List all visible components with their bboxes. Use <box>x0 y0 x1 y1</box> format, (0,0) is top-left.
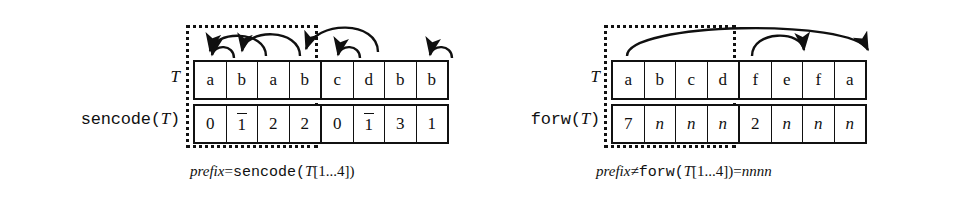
text-right-cell-2: b <box>645 62 677 98</box>
caption-right-tail: nnnn <box>742 163 772 179</box>
sencode-left-cell-3: 2 <box>258 106 290 142</box>
arc-l-6 <box>430 47 452 58</box>
forw-right-cell-7: n <box>803 106 835 142</box>
caption-left-range: [1...4]) <box>313 163 354 179</box>
caption-left: prefix=sencode(T[1...4]) <box>190 164 355 180</box>
text-right-cell-8: a <box>835 62 866 98</box>
caption-right-prefix-word: prefix <box>596 163 630 179</box>
text-left-cell-8: b <box>417 62 448 98</box>
forw-right-cell-2: n <box>645 106 677 142</box>
caption-left-relation: = <box>224 163 232 179</box>
text-array-right: abcdfefa <box>611 60 867 100</box>
caption-right-range: [1...4])= <box>692 163 742 179</box>
sencode-left-cell-6-overbar-value: 1 <box>365 116 374 133</box>
diagram-panel-right: T forw(T) abcdfefa 7nnn2nnn prefix≠forw(… <box>480 0 960 199</box>
caption-right: prefix≠forw(T[1...4])=nnnn <box>596 164 772 180</box>
text-right-cell-4: d <box>708 62 741 98</box>
sencode-left-cell-1: 0 <box>195 106 227 142</box>
caption-left-arg: T <box>305 163 313 179</box>
text-left-cell-6: d <box>354 62 386 98</box>
caption-left-fn: sencode( <box>233 164 305 181</box>
forw-right-cell-3: n <box>676 106 708 142</box>
sencode-left-cell-2: 1 <box>227 106 259 142</box>
sencode-left-cell-6: 1 <box>354 106 386 142</box>
sencode-left-cell-5: 0 <box>322 106 354 142</box>
text-array-left: ababcdbb <box>193 60 449 100</box>
caption-right-fn: forw( <box>639 164 684 181</box>
text-left-cell-1: a <box>195 62 227 98</box>
forw-right-cell-8: n <box>835 106 866 142</box>
forw-right-cell-4: n <box>708 106 741 142</box>
arc-l-1 <box>212 47 234 58</box>
sencode-left-cell-4: 2 <box>290 106 323 142</box>
sencode-array-left: 01220131 <box>193 104 449 144</box>
text-right-cell-7: f <box>803 62 835 98</box>
text-left-cell-3: a <box>258 62 290 98</box>
arc-r-2 <box>752 36 804 56</box>
forw-right-cell-1: 7 <box>613 106 645 142</box>
text-left-cell-4: b <box>290 62 323 98</box>
forw-right-cell-6: n <box>772 106 804 142</box>
forw-array-right: 7nnn2nnn <box>611 104 867 144</box>
arc-l-2 <box>210 36 266 56</box>
text-right-cell-6: e <box>772 62 804 98</box>
sencode-left-cell-7: 3 <box>385 106 417 142</box>
text-left-cell-5: c <box>322 62 354 98</box>
caption-left-prefix-word: prefix <box>190 163 224 179</box>
text-left-cell-2: b <box>227 62 259 98</box>
text-right-cell-1: a <box>613 62 645 98</box>
text-right-cell-3: c <box>676 62 708 98</box>
sencode-left-cell-8: 1 <box>417 106 448 142</box>
caption-right-relation: ≠ <box>630 163 638 179</box>
forw-right-cell-5: 2 <box>740 106 772 142</box>
figure-root: T sencode(T) ababcdb <box>0 0 960 199</box>
diagram-panel-left: T sencode(T) ababcdb <box>0 0 480 199</box>
text-right-cell-5: f <box>740 62 772 98</box>
caption-right-arg: T <box>684 163 692 179</box>
sencode-left-cell-2-overbar-value: 1 <box>238 116 247 133</box>
arc-r-1 <box>627 28 868 56</box>
text-left-cell-7: b <box>385 62 417 98</box>
arc-l-5 <box>338 47 360 58</box>
